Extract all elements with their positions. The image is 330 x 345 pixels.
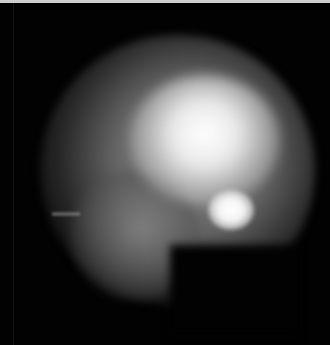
dark-notch xyxy=(170,245,300,335)
top-border xyxy=(0,0,330,3)
bright-hotspot xyxy=(208,190,254,230)
glow-core xyxy=(130,75,280,205)
horizontal-streak xyxy=(52,212,80,216)
image-canvas xyxy=(0,0,330,345)
left-edge-line xyxy=(13,3,14,345)
